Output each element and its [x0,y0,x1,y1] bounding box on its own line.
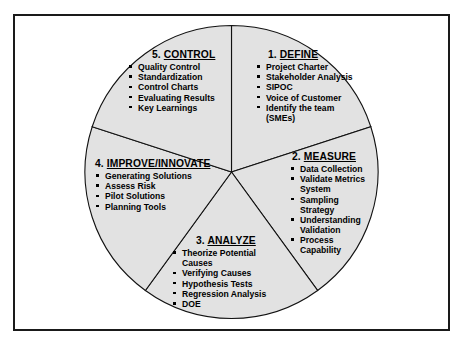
pie-diagram: 1. DEFINE Project Charter Stakeholder An… [0,0,466,343]
list-item: Planning Tools [95,202,210,212]
list-item: Generating Solutions [95,171,210,181]
list-item: Assess Risk [95,181,210,191]
list-item: Verifying Causes [172,268,266,278]
list-item: Pilot Solutions [95,191,210,201]
list-item: Process Capability [290,235,365,255]
segment-items-improve: Generating Solutions Assess Risk Pilot S… [95,171,210,212]
segment-label-define: 1. DEFINE Project Charter Stakeholder An… [256,50,353,123]
segment-title-define: 1. DEFINE [256,50,353,61]
segment-name-analyze: ANALYZE [207,235,255,246]
list-item: Project Charter [256,62,353,72]
segment-name-improve: IMPROVE/INNOVATE [107,158,211,169]
list-item: Voice of Customer [256,93,353,103]
segment-label-measure: 2. MEASURE Data Collection Validate Metr… [290,152,365,255]
list-item: Sampling Strategy [290,195,365,215]
list-item: Validate Metrics System [290,174,365,194]
list-item: SIPOC [256,82,353,92]
segment-label-control: 5. CONTROL Quality Control Standardizati… [128,50,215,113]
list-item: Regression Analysis [172,289,266,299]
list-item: DOE [172,299,266,309]
segment-name-control: CONTROL [164,49,216,60]
list-item: Standardization [128,72,215,82]
segment-items-control: Quality Control Standardization Control … [128,62,215,113]
list-item: Stakeholder Analysis [256,72,353,82]
list-item: Hypothesis Tests [172,279,266,289]
segment-title-analyze: 3. ANALYZE [172,236,266,247]
segment-number-define: 1. [268,49,277,60]
segment-name-measure: MEASURE [304,151,356,162]
segment-title-measure: 2. MEASURE [290,152,365,163]
segment-number-measure: 2. [292,151,301,162]
segment-label-analyze: 3. ANALYZE Theorize Potential Causes Ver… [172,236,266,309]
list-item: Data Collection [290,164,365,174]
list-item: Theorize Potential Causes [172,248,266,268]
list-item: Understanding Validation [290,215,365,235]
segment-title-control: 5. CONTROL [128,50,215,61]
segment-number-control: 5. [152,49,161,60]
segment-name-define: DEFINE [280,49,318,60]
segment-items-analyze: Theorize Potential Causes Verifying Caus… [172,248,266,309]
segment-items-measure: Data Collection Validate Metrics System … [290,164,365,255]
list-item: Quality Control [128,62,215,72]
segment-number-improve: 4. [95,158,104,169]
segment-items-define: Project Charter Stakeholder Analysis SIP… [256,62,353,123]
list-item: Identify the team (SMEs) [256,103,353,123]
segment-number-analyze: 3. [196,235,205,246]
list-item: Evaluating Results [128,93,215,103]
list-item: Key Learnings [128,103,215,113]
segment-title-improve: 4. IMPROVE/INNOVATE [95,159,210,170]
segment-label-improve: 4. IMPROVE/INNOVATE Generating Solutions… [95,159,210,212]
list-item: Control Charts [128,82,215,92]
